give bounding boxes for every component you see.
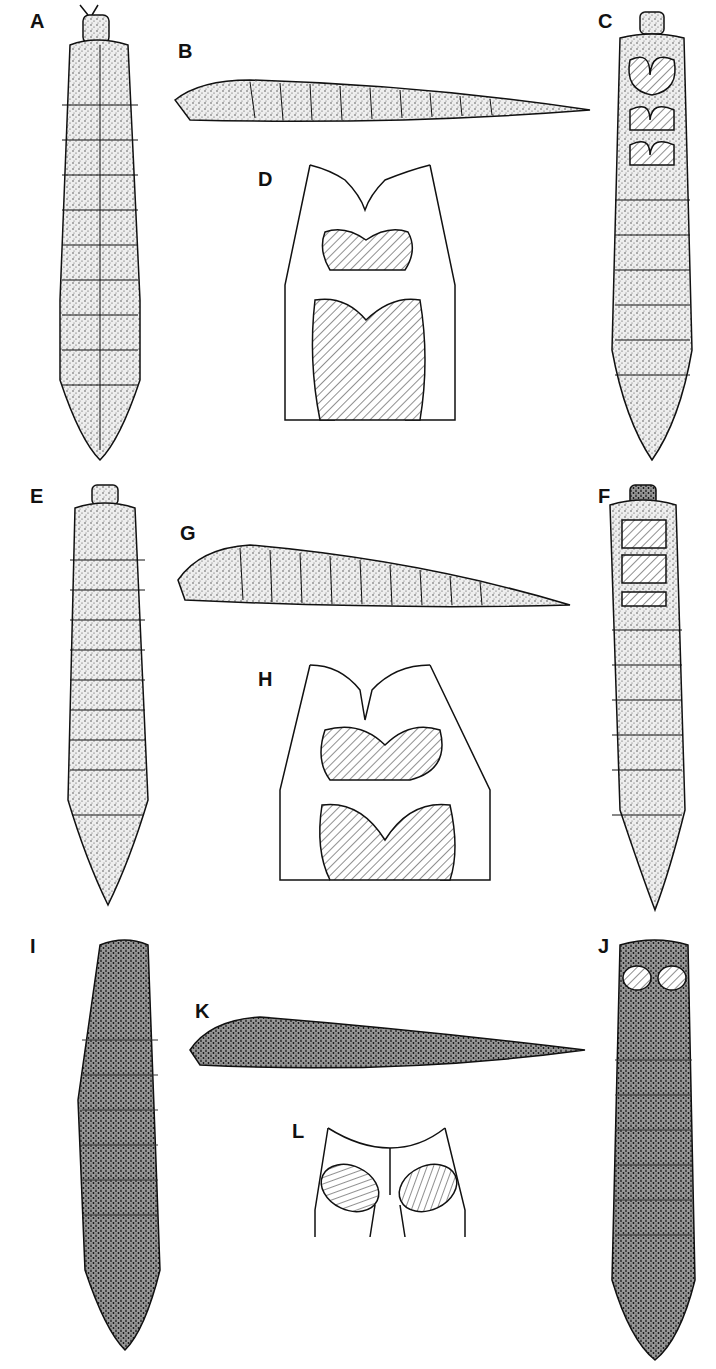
- panel-label-i: I: [30, 935, 36, 958]
- panel-b: [175, 80, 590, 121]
- panel-e: [68, 485, 148, 905]
- panel-label-k: K: [195, 1000, 209, 1023]
- panel-label-l: L: [292, 1120, 304, 1143]
- panel-l: [314, 1128, 465, 1237]
- panel-label-a: A: [30, 10, 44, 33]
- panel-label-g: G: [180, 522, 196, 545]
- panel-label-e: E: [30, 485, 43, 508]
- panel-label-d: D: [258, 168, 272, 191]
- panel-label-c: C: [598, 10, 612, 33]
- panel-d: [285, 165, 455, 420]
- figure-plate: A B C D E F G H I J K L: [0, 0, 716, 1369]
- larva-illustrations: [0, 0, 716, 1369]
- panel-label-j: J: [598, 935, 609, 958]
- panel-a: [60, 5, 140, 460]
- panel-label-b: B: [178, 40, 192, 63]
- panel-k: [190, 1017, 585, 1068]
- panel-h: [280, 665, 490, 880]
- panel-f: [610, 485, 685, 910]
- panel-j: [612, 940, 695, 1360]
- panel-label-h: H: [258, 668, 272, 691]
- panel-i: [78, 940, 160, 1350]
- panel-g: [178, 545, 570, 607]
- panel-c: [612, 12, 692, 460]
- panel-label-f: F: [598, 485, 610, 508]
